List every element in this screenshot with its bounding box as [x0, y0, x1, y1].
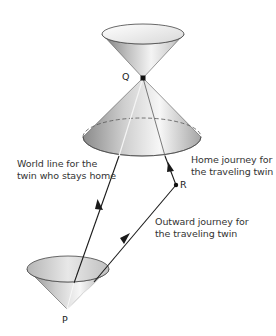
label-p: P	[62, 314, 68, 325]
outward-journey-caption-line2: the traveling twin	[155, 228, 249, 240]
arrow-icon	[120, 233, 130, 244]
stay-home-caption: World line for the twin who stays home	[17, 158, 116, 182]
event-q-dot	[141, 76, 146, 81]
past-cone-q	[83, 78, 201, 156]
outward-journey-caption-line1: Outward journey for	[155, 216, 249, 228]
arrow-icon	[167, 162, 174, 172]
label-q: Q	[122, 71, 129, 82]
home-journey-caption: Home journey for the traveling twin	[191, 154, 273, 178]
stay-home-caption-line2: twin who stays home	[17, 170, 116, 182]
home-journey-caption-line2: the traveling twin	[191, 166, 273, 178]
home-journey-caption-line1: Home journey for	[191, 154, 273, 166]
stay-home-caption-line1: World line for the	[17, 158, 116, 170]
future-cone-q	[102, 24, 184, 78]
outward-journey-caption: Outward journey for the traveling twin	[155, 216, 249, 240]
home-journey-line	[165, 156, 176, 185]
event-r-dot	[174, 183, 178, 187]
future-cone-p	[27, 256, 109, 309]
label-r: R	[180, 179, 187, 190]
